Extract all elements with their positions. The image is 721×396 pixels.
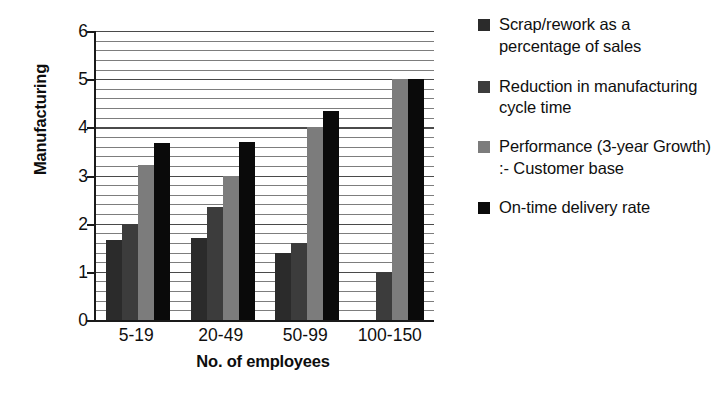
legend-swatch-icon bbox=[478, 81, 490, 93]
bar bbox=[223, 176, 239, 321]
legend-label: Reduction in manufacturing cycle time bbox=[499, 76, 716, 120]
x-axis-tick-labels: 5-19 20-49 50-99 100-150 bbox=[94, 325, 432, 351]
legend-label: On-time delivery rate bbox=[499, 197, 650, 219]
legend-item: Scrap/rework as a percentage of sales bbox=[478, 14, 716, 58]
bar bbox=[138, 165, 154, 320]
y-axis-tick bbox=[87, 320, 96, 322]
x-tick-label: 100-150 bbox=[348, 325, 433, 351]
bar bbox=[307, 127, 323, 320]
y-axis-tick bbox=[87, 127, 96, 129]
x-tick-label: 5-19 bbox=[94, 325, 179, 351]
bar bbox=[191, 238, 207, 320]
chart-legend: Scrap/rework as a percentage of sales Re… bbox=[478, 14, 716, 235]
bar bbox=[291, 243, 307, 320]
bar bbox=[408, 79, 424, 320]
bar-group bbox=[96, 31, 181, 320]
bar bbox=[392, 79, 408, 320]
bar-group bbox=[181, 31, 266, 320]
y-axis-tick-labels: 6 5 4 3 2 1 0 bbox=[58, 31, 88, 320]
bar-group bbox=[265, 31, 350, 320]
bar bbox=[323, 111, 339, 320]
legend-swatch-icon bbox=[478, 141, 490, 153]
bar-group bbox=[350, 31, 435, 320]
bar bbox=[376, 272, 392, 320]
y-axis-tick bbox=[87, 224, 96, 226]
bar bbox=[154, 143, 170, 320]
legend-label: Performance (3-year Growth) :- Customer … bbox=[499, 136, 716, 180]
bar-groups bbox=[96, 31, 434, 320]
bar bbox=[106, 240, 122, 320]
legend-swatch-icon bbox=[478, 19, 490, 31]
legend-item: Performance (3-year Growth) :- Customer … bbox=[478, 136, 716, 180]
plot-area bbox=[94, 31, 434, 322]
y-axis-tick bbox=[87, 176, 96, 178]
legend-label: Scrap/rework as a percentage of sales bbox=[499, 14, 716, 58]
y-axis-tick bbox=[87, 272, 96, 274]
bar-chart-figure: Manufacturing 6 5 4 3 2 1 0 5-19 20-49 5… bbox=[0, 0, 721, 396]
y-axis-tick bbox=[87, 31, 96, 33]
x-tick-label: 50-99 bbox=[263, 325, 348, 351]
bar bbox=[239, 142, 255, 320]
y-axis-tick bbox=[87, 79, 96, 81]
bar bbox=[275, 253, 291, 320]
x-tick-label: 20-49 bbox=[179, 325, 264, 351]
legend-item: On-time delivery rate bbox=[478, 197, 716, 219]
x-axis-title: No. of employees bbox=[94, 352, 432, 371]
bar bbox=[207, 207, 223, 320]
y-axis-title: Manufacturing bbox=[31, 0, 50, 250]
bar bbox=[122, 224, 138, 320]
legend-swatch-icon bbox=[478, 202, 490, 214]
legend-item: Reduction in manufacturing cycle time bbox=[478, 76, 716, 120]
